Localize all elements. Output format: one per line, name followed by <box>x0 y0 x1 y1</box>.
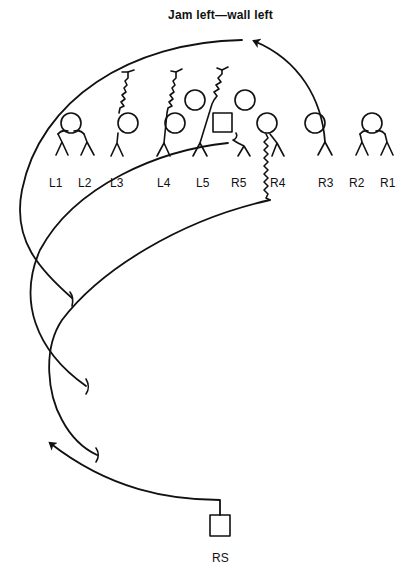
player-r3 <box>305 113 332 155</box>
player-label-l2: L2 <box>78 176 92 190</box>
player-label-l5: L5 <box>196 176 210 190</box>
player-label-l3: L3 <box>110 176 124 190</box>
r3-route-arrow <box>254 41 325 142</box>
r4-wall-route <box>49 200 270 455</box>
jam-zigzag-r4 <box>264 134 270 200</box>
player-r2-r1-double <box>356 113 393 155</box>
player-l3 <box>111 70 138 156</box>
player-label-r5: R5 <box>231 176 247 190</box>
player-label-r1: R1 <box>380 176 396 190</box>
kicker-square <box>213 113 232 132</box>
player-r5 <box>233 90 255 156</box>
player-label-r3: R3 <box>318 176 334 190</box>
player-label-r4: R4 <box>270 176 286 190</box>
returner-square <box>210 515 230 536</box>
player-l5 <box>185 67 228 156</box>
play-diagram: RS <box>0 0 407 578</box>
player-l4 <box>157 69 185 156</box>
player-label-rs: RS <box>212 551 229 565</box>
block-icon <box>70 292 73 306</box>
rs-return-route <box>50 443 220 515</box>
player-l1-l2-double <box>56 113 94 155</box>
player-label-l4: L4 <box>157 176 171 190</box>
player-label-l1: L1 <box>49 176 63 190</box>
player-label-r2: R2 <box>349 176 365 190</box>
jam-zigzag-l3 <box>119 72 128 113</box>
